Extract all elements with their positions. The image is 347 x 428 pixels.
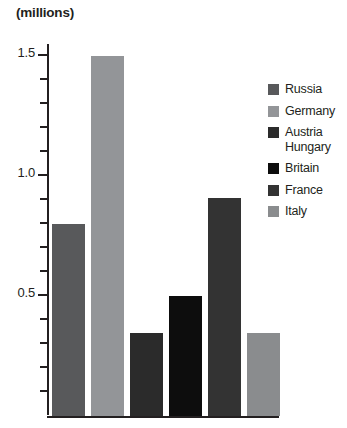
legend-item-label: Britain [285, 161, 319, 176]
y-axis-tick-major: 1.0 [38, 174, 47, 176]
legend-item-label: France [285, 183, 323, 198]
legend-color-swatch [268, 206, 279, 217]
y-axis-tick-minor [40, 390, 47, 392]
legend-item-label: Austria Hungary [285, 125, 331, 154]
y-axis-tick-major: 1.5 [38, 54, 47, 56]
y-axis-tick-label: 1.5 [18, 46, 35, 59]
bar [91, 56, 124, 416]
y-axis-tick-minor [40, 78, 47, 80]
bar [169, 296, 202, 416]
legend-item: Britain [268, 161, 347, 176]
y-axis-tick-minor [40, 366, 47, 368]
legend-item: Austria Hungary [268, 125, 347, 154]
bar-chart: (millions) 1.51.00.5 RussiaGermanyAustri… [0, 0, 347, 428]
y-axis-tick-minor [40, 270, 47, 272]
legend-item: France [268, 183, 347, 198]
legend-color-swatch [268, 185, 279, 196]
y-axis-tick-minor [40, 342, 47, 344]
legend-item-label: Italy [285, 204, 307, 219]
bar [130, 333, 163, 416]
y-axis-line [47, 44, 49, 415]
y-axis-tick-minor [40, 102, 47, 104]
y-axis-tick-minor [40, 198, 47, 200]
legend-item: Russia [268, 82, 347, 97]
legend-color-swatch [268, 106, 279, 117]
bar [208, 198, 241, 416]
legend: RussiaGermanyAustria HungaryBritainFranc… [268, 82, 347, 226]
y-axis-tick-minor [40, 222, 47, 224]
legend-color-swatch [268, 127, 279, 138]
y-axis-tick-major: 0.5 [38, 294, 47, 296]
legend-color-swatch [268, 84, 279, 95]
x-axis-line [47, 416, 279, 418]
bar [247, 333, 280, 416]
plot-area: 1.51.00.5 [47, 38, 279, 418]
y-axis-tick-minor [40, 246, 47, 248]
legend-item: Italy [268, 204, 347, 219]
legend-color-swatch [268, 163, 279, 174]
legend-item-label: Germany [285, 104, 335, 119]
y-axis-tick-label: 1.0 [18, 166, 35, 179]
chart-title: (millions) [16, 5, 74, 20]
legend-item: Germany [268, 104, 347, 119]
y-axis-tick-minor [40, 126, 47, 128]
bar [52, 224, 85, 416]
y-axis-tick-minor [40, 318, 47, 320]
legend-item-label: Russia [285, 82, 322, 97]
y-axis-tick-label: 0.5 [18, 286, 35, 299]
y-axis-tick-minor [40, 150, 47, 152]
